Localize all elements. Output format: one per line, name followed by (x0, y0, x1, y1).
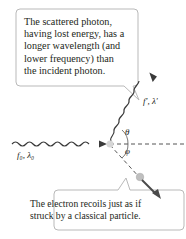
callout-line: struck by a classical particle. (30, 210, 141, 222)
callout-line: The scattered photon, (24, 16, 124, 28)
incident-photon-wave (12, 142, 89, 146)
callout-line: lower frequency) than (24, 53, 124, 65)
phi-label: φ (125, 146, 130, 156)
callout-line: the incident photon. (24, 65, 124, 77)
callout-line: having lost energy, has a (24, 28, 124, 40)
electron-callout-text: The electron recoils just as if struck b… (30, 198, 141, 222)
callout-line: longer wavelength (and (24, 40, 124, 52)
scattered-photon-callout-text: The scattered photon, having lost energy… (24, 16, 124, 77)
callout-line: The electron recoils just as if (30, 198, 141, 210)
scattered-label: f′, λ′ (143, 96, 158, 106)
incident-label: f₀, λ₀ (17, 150, 34, 160)
electron-initial (107, 141, 114, 148)
scattered-arrowhead (149, 71, 157, 82)
incident-arrowhead (99, 141, 107, 148)
theta-label: θ (125, 127, 129, 137)
